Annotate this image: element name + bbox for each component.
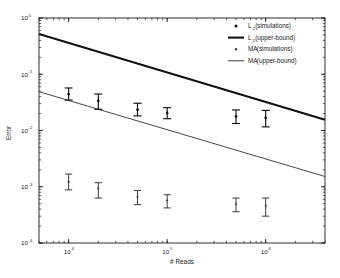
y-axis-title: Error bbox=[5, 125, 12, 140]
x-tick-label: 10 bbox=[162, 248, 169, 255]
legend-marker-icon bbox=[235, 48, 237, 50]
legend-marker-icon bbox=[235, 25, 238, 28]
y-tick-label: 10 bbox=[21, 14, 28, 21]
y-tick-label: 10 bbox=[21, 239, 28, 246]
x-tick-exponent: 4 bbox=[71, 246, 74, 251]
legend-entry-label: L bbox=[248, 34, 252, 41]
y-tick-label: 10 bbox=[21, 71, 28, 78]
y-tick-exponent: -2 bbox=[29, 125, 33, 130]
y-tick-label: 10 bbox=[21, 127, 28, 134]
y-tick-label: 10 bbox=[21, 183, 28, 190]
chart-figure: 10010-110-210-310-4 104105106 Error # Re… bbox=[0, 0, 340, 278]
y-axis-tick-labels: 10010-110-210-310-4 bbox=[21, 13, 33, 247]
y-tick-exponent: -4 bbox=[29, 238, 33, 243]
legend-entry-suffix: (simulations) bbox=[255, 22, 291, 30]
legend-entry-suffix: (upper-bound) bbox=[255, 34, 295, 42]
x-axis-title: # Reads bbox=[170, 258, 194, 265]
x-tick-exponent: 6 bbox=[268, 246, 271, 251]
legend-entry-suffix: (upper-bound) bbox=[257, 57, 297, 65]
error-vs-reads-log-log-plot: 10010-110-210-310-4 104105106 Error # Re… bbox=[0, 0, 340, 278]
legend-entry-label: L bbox=[248, 22, 252, 29]
x-tick-label: 10 bbox=[64, 248, 71, 255]
legend-entry-suffix: (simulations) bbox=[257, 45, 293, 53]
x-tick-exponent: 5 bbox=[170, 246, 173, 251]
y-tick-exponent: -3 bbox=[29, 182, 33, 187]
x-axis-tick-labels: 104105106 bbox=[64, 246, 272, 254]
y-tick-exponent: 0 bbox=[29, 13, 32, 18]
y-tick-exponent: -1 bbox=[29, 69, 33, 74]
x-tick-label: 10 bbox=[261, 248, 268, 255]
